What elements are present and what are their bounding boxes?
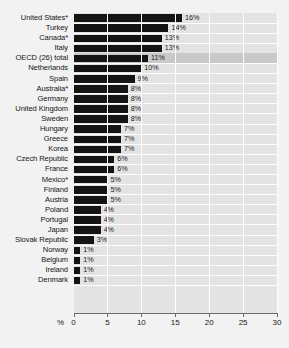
category-label: Spain bbox=[0, 74, 68, 84]
bar-value-label: 3% bbox=[97, 235, 107, 245]
bar-row: United States*16% bbox=[0, 13, 289, 23]
x-tick-label-5: 5 bbox=[105, 318, 109, 327]
bar-value-label: 13% bbox=[165, 33, 179, 43]
bar-row: Austria5% bbox=[0, 195, 289, 205]
bar-value-label: 8% bbox=[131, 84, 141, 94]
bar-value-label: 4% bbox=[104, 225, 114, 235]
gridline-20 bbox=[209, 13, 210, 313]
bar bbox=[74, 115, 128, 123]
bar bbox=[74, 55, 149, 63]
category-label: Czech Republic bbox=[0, 154, 68, 164]
bar-row: Finland5% bbox=[0, 185, 289, 195]
bar-value-label: 8% bbox=[131, 104, 141, 114]
category-label: Portugal bbox=[0, 215, 68, 225]
chart-title bbox=[0, 0, 289, 12]
bar-row: Italy13% bbox=[0, 43, 289, 53]
x-tick-label-0: 0 bbox=[71, 318, 75, 327]
bar-value-label: 4% bbox=[104, 205, 114, 215]
bar-row: United Kingdom8% bbox=[0, 104, 289, 114]
category-label: France bbox=[0, 164, 68, 174]
bar-row: Norway1% bbox=[0, 245, 289, 255]
category-label: Canada* bbox=[0, 33, 68, 43]
bar-row: Turkey14% bbox=[0, 23, 289, 33]
bar-row: Germany8% bbox=[0, 94, 289, 104]
category-label: Belgium bbox=[0, 255, 68, 265]
category-label: Norway bbox=[0, 245, 68, 255]
category-label: Italy bbox=[0, 43, 68, 53]
bar-value-label: 10% bbox=[144, 63, 158, 73]
gridline-15 bbox=[175, 13, 176, 313]
category-label: Austria bbox=[0, 195, 68, 205]
bar-row: Slovak Republic3% bbox=[0, 235, 289, 245]
category-label: Turkey bbox=[0, 23, 68, 33]
category-label: Sweden bbox=[0, 114, 68, 124]
bar-value-label: 5% bbox=[110, 185, 120, 195]
bar-row: Greece7% bbox=[0, 134, 289, 144]
category-label: Slovak Republic bbox=[0, 235, 68, 245]
x-tick-label-25: 25 bbox=[239, 318, 248, 327]
bar bbox=[74, 14, 183, 22]
x-tick-10 bbox=[141, 313, 142, 317]
bar-value-label: 16% bbox=[185, 13, 199, 23]
bar-value-label: 9% bbox=[138, 74, 148, 84]
bar-row: Belgium1% bbox=[0, 255, 289, 265]
bar-row: Czech Republic6% bbox=[0, 154, 289, 164]
bar-value-label: 13% bbox=[165, 43, 179, 53]
bar-value-label: 11% bbox=[151, 53, 165, 63]
bar bbox=[74, 257, 81, 265]
bar-rows: United States*16%Turkey14%Canada*13%Ital… bbox=[0, 13, 289, 286]
category-label: Hungary bbox=[0, 124, 68, 134]
bar bbox=[74, 85, 128, 93]
category-label: Mexico* bbox=[0, 175, 68, 185]
bar-value-label: 8% bbox=[131, 94, 141, 104]
category-label: Poland bbox=[0, 205, 68, 215]
x-axis-unit-label: % bbox=[57, 318, 64, 327]
bar bbox=[74, 196, 108, 204]
bar bbox=[74, 216, 101, 224]
category-label: United Kingdom bbox=[0, 104, 68, 114]
bar-row: Sweden8% bbox=[0, 114, 289, 124]
gridline-5 bbox=[107, 13, 108, 313]
bar-chart: United States*16%Turkey14%Canada*13%Ital… bbox=[0, 0, 289, 348]
bar bbox=[74, 45, 162, 53]
bar-row: OECD (26) total11% bbox=[0, 53, 289, 63]
category-label: Denmark bbox=[0, 275, 68, 285]
bar-value-label: 7% bbox=[124, 124, 134, 134]
bar-row: Ireland1% bbox=[0, 265, 289, 275]
bar-value-label: 14% bbox=[171, 23, 185, 33]
bar-row: Poland4% bbox=[0, 205, 289, 215]
bar bbox=[74, 277, 81, 285]
category-label: Korea bbox=[0, 144, 68, 154]
category-label: Australia* bbox=[0, 84, 68, 94]
bar bbox=[74, 105, 128, 113]
bar-row: Spain9% bbox=[0, 74, 289, 84]
bar-value-label: 6% bbox=[117, 154, 127, 164]
x-tick-label-15: 15 bbox=[171, 318, 180, 327]
bar-value-label: 1% bbox=[83, 275, 93, 285]
bar bbox=[74, 186, 108, 194]
bar bbox=[74, 24, 169, 32]
bar bbox=[74, 176, 108, 184]
bar-row: France6% bbox=[0, 164, 289, 174]
bar-value-label: 1% bbox=[83, 245, 93, 255]
bar-value-label: 8% bbox=[131, 114, 141, 124]
bar-row: Hungary7% bbox=[0, 124, 289, 134]
bar bbox=[74, 146, 121, 154]
bar-value-label: 7% bbox=[124, 144, 134, 154]
bar bbox=[74, 247, 81, 255]
bar bbox=[74, 125, 121, 133]
bar-row: Portugal4% bbox=[0, 215, 289, 225]
category-label: Finland bbox=[0, 185, 68, 195]
bar bbox=[74, 35, 162, 43]
x-tick-label-10: 10 bbox=[137, 318, 146, 327]
bar bbox=[74, 267, 81, 275]
bar-row: Canada*13% bbox=[0, 33, 289, 43]
bar-value-label: 5% bbox=[110, 195, 120, 205]
bar-row: Mexico*5% bbox=[0, 175, 289, 185]
category-label: Ireland bbox=[0, 265, 68, 275]
bar-row: Japan4% bbox=[0, 225, 289, 235]
bar-row: Australia*8% bbox=[0, 84, 289, 94]
x-tick-20 bbox=[209, 313, 210, 317]
bar-value-label: 7% bbox=[124, 134, 134, 144]
bar bbox=[74, 75, 135, 83]
